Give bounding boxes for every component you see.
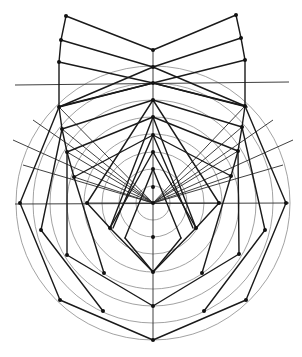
outer-polygon — [60, 300, 153, 340]
radial-line — [23, 165, 153, 203]
outer-polygon — [153, 300, 246, 340]
chevron — [153, 38, 241, 67]
outer-polygon — [20, 107, 59, 203]
chevron — [153, 60, 245, 83]
point — [200, 271, 204, 275]
second-polygon — [242, 127, 265, 230]
outer-polygon — [20, 203, 60, 300]
point — [58, 298, 62, 302]
outer-polygon — [245, 106, 286, 203]
chevron — [153, 15, 236, 50]
axis-point — [151, 167, 155, 171]
point — [65, 253, 69, 257]
point — [240, 125, 244, 129]
point — [263, 228, 267, 232]
point — [202, 309, 206, 313]
axis-point — [151, 115, 155, 119]
axis-point — [151, 48, 155, 52]
point — [57, 60, 61, 64]
axis-point — [151, 150, 155, 154]
point — [239, 36, 243, 40]
inner-polygon — [153, 228, 196, 272]
point — [102, 271, 106, 275]
axis-point — [151, 98, 155, 102]
inner-edge — [196, 203, 219, 228]
point — [72, 175, 76, 179]
inner-edge — [202, 176, 231, 273]
chevron-down — [87, 100, 153, 203]
point — [101, 309, 105, 313]
vertical-edge — [238, 151, 239, 254]
axis-point — [151, 235, 155, 239]
axis-point — [151, 185, 155, 189]
point — [194, 226, 198, 230]
point — [243, 104, 247, 108]
chevron-down — [153, 100, 219, 203]
point — [237, 252, 241, 256]
point — [64, 14, 68, 18]
axis-point — [151, 81, 155, 85]
radial-line — [153, 165, 283, 203]
axis-point — [151, 338, 155, 342]
geometric-construction-diagram — [0, 0, 302, 357]
inner-polygon — [110, 228, 153, 272]
point — [18, 201, 22, 205]
point — [229, 174, 233, 178]
point — [65, 150, 69, 154]
axis-point — [151, 201, 155, 205]
outer-polygon — [246, 203, 286, 300]
point — [234, 13, 238, 17]
inner-chevron — [153, 135, 193, 228]
axis-point — [151, 133, 155, 137]
chevron-down — [110, 152, 153, 228]
axis-point — [151, 304, 155, 308]
point — [57, 105, 61, 109]
point — [39, 228, 43, 232]
inner-edge — [74, 177, 104, 273]
inner-chevron — [113, 135, 153, 228]
point — [244, 298, 248, 302]
cross-line — [62, 100, 153, 129]
inner-edge — [87, 203, 110, 228]
point — [284, 201, 288, 205]
point — [243, 58, 247, 62]
axis-point — [151, 270, 155, 274]
point — [59, 38, 63, 42]
second-polygon — [204, 230, 265, 311]
axis-point — [151, 65, 155, 69]
point — [85, 201, 89, 205]
point — [60, 127, 64, 131]
point — [108, 226, 112, 230]
point — [217, 201, 221, 205]
cross-line — [67, 117, 153, 152]
point — [236, 149, 240, 153]
